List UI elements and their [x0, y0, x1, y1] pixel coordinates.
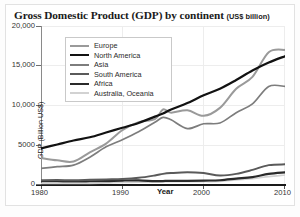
y-tick-label-0: 0: [1, 179, 35, 188]
x-tick-label-1990: 1990: [112, 188, 129, 197]
legend-item-australia-oceania[interactable]: Australia, Oceania: [70, 89, 167, 99]
legend-swatch-europe: [70, 45, 89, 47]
legend-label-africa: Africa: [94, 79, 113, 89]
legend-label-south-america: South America: [94, 70, 141, 80]
legend-label-asia: Asia: [94, 60, 108, 70]
x-tick-label-2000: 2000: [193, 188, 210, 197]
x-tick-label-2010: 2010: [274, 188, 291, 197]
y-tick-label-20000: 20,000: [1, 21, 35, 30]
chart-title-main: Gross Domestic Product (GDP) by continen…: [14, 9, 224, 21]
legend-item-europe[interactable]: Europe: [70, 41, 167, 51]
chart-figure: Gross Domestic Product (GDP) by continen…: [0, 0, 300, 217]
y-tick-label-15000: 15,000: [1, 60, 35, 69]
chart-title-unit: (US$ billion): [227, 12, 270, 21]
chart-title: Gross Domestic Product (GDP) by continen…: [14, 9, 270, 21]
legend-item-asia[interactable]: Asia: [70, 60, 167, 70]
legend-swatch-australia-oceania: [70, 92, 89, 94]
y-tick-label-5000: 5000: [1, 140, 35, 149]
legend-label-north-america: North America: [94, 51, 140, 61]
legend-item-north-america[interactable]: North America: [70, 51, 167, 61]
legend-label-europe: Europe: [94, 41, 118, 51]
legend-label-australia-oceania: Australia, Oceania: [94, 89, 154, 99]
chart-legend: Europe North America Asia South America …: [65, 37, 172, 102]
legend-swatch-south-america: [70, 73, 89, 75]
x-tick-label-1980: 1980: [31, 188, 48, 197]
legend-swatch-north-america: [70, 54, 89, 56]
legend-swatch-africa: [70, 83, 89, 85]
legend-item-africa[interactable]: Africa: [70, 79, 167, 89]
x-axis-title: Year: [157, 187, 173, 196]
y-tick-label-10000: 10,000: [1, 100, 35, 109]
legend-item-south-america[interactable]: South America: [70, 70, 167, 80]
legend-swatch-asia: [70, 64, 89, 66]
